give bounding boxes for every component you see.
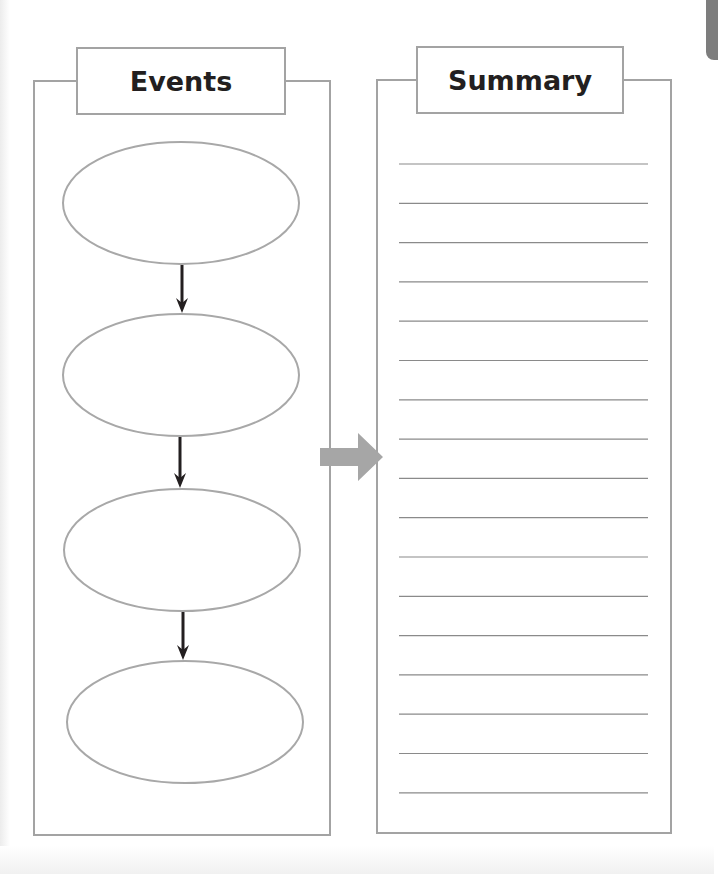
event-ellipse[interactable] xyxy=(67,661,303,783)
down-arrow-icon xyxy=(176,265,188,313)
down-arrow-icon xyxy=(174,437,186,488)
event-ellipse[interactable] xyxy=(63,314,299,436)
right-arrow-shape xyxy=(320,433,383,481)
event-ellipse[interactable] xyxy=(64,489,300,611)
down-arrow-icon xyxy=(177,612,189,660)
right-arrow-icon xyxy=(320,433,383,481)
summary-writing-lines xyxy=(399,164,648,793)
event-ellipse[interactable] xyxy=(63,142,299,264)
event-ellipses xyxy=(63,142,303,783)
